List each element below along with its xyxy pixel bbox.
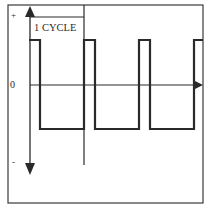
square-wave-diagram: + 0 - 1 CYCLE — [0, 0, 211, 214]
cycle-label: 1 CYCLE — [34, 22, 76, 33]
positive-label: + — [11, 10, 16, 20]
y-axis-up-arrow-icon — [25, 6, 35, 17]
zero-label: 0 — [10, 79, 15, 90]
outer-frame — [8, 5, 203, 203]
y-axis-down-arrow-icon — [25, 163, 35, 175]
negative-label: - — [12, 157, 15, 167]
